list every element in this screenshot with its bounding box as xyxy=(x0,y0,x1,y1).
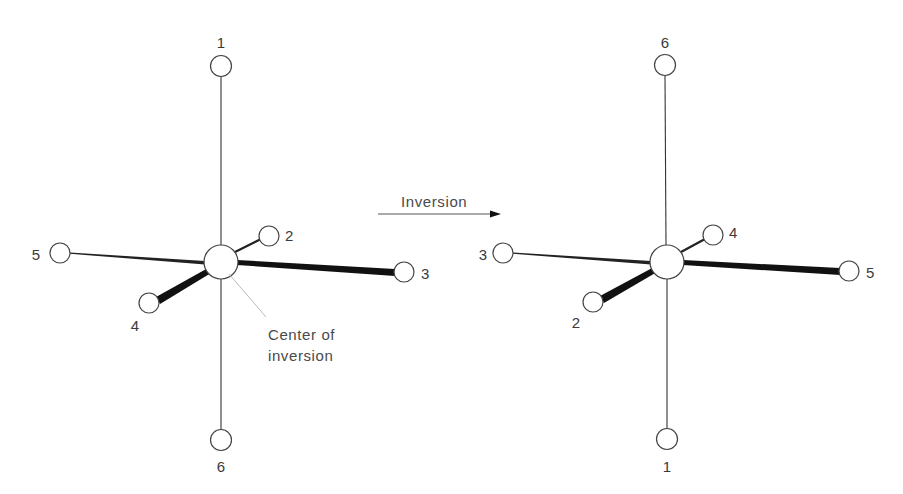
bond-right xyxy=(683,260,840,275)
atom-upper-right xyxy=(703,225,723,245)
inversion-diagram: 1 2 5 3 4 6 Center of inversion Inversio… xyxy=(0,0,903,494)
central-atom xyxy=(650,245,684,279)
atom-upper-right xyxy=(259,226,279,246)
annotation-line1: Center of xyxy=(268,326,335,343)
atom-left xyxy=(50,243,70,263)
bond-upper-right xyxy=(235,239,261,252)
molecule-before: 1 2 5 3 4 6 Center of inversion xyxy=(32,34,430,475)
arrow-label: Inversion xyxy=(401,193,467,210)
label-top: 1 xyxy=(217,34,225,51)
label-lower-left: 2 xyxy=(572,314,580,331)
bond-top xyxy=(665,76,666,245)
bond-lower-left xyxy=(600,267,657,303)
label-upper-right: 4 xyxy=(729,224,737,241)
atom-bottom xyxy=(211,430,232,451)
label-left: 3 xyxy=(479,246,487,263)
atom-top xyxy=(211,56,232,77)
bond-left xyxy=(513,253,651,265)
bond-left xyxy=(70,253,205,265)
atom-right xyxy=(839,261,859,281)
atom-bottom xyxy=(657,429,678,450)
inversion-arrow: Inversion xyxy=(378,193,501,218)
arrowhead-icon xyxy=(490,211,501,218)
label-bottom: 1 xyxy=(663,458,671,475)
bond-upper-right xyxy=(681,239,705,252)
label-top: 6 xyxy=(661,34,669,51)
annotation-line2: inversion xyxy=(268,347,333,364)
label-right: 3 xyxy=(421,265,429,282)
central-atom xyxy=(204,245,238,279)
label-right: 5 xyxy=(866,264,874,281)
molecule-after: 6 4 3 5 2 1 xyxy=(479,34,875,475)
label-bottom: 6 xyxy=(217,458,225,475)
atom-lower-left xyxy=(139,293,159,313)
atom-lower-left xyxy=(583,292,603,312)
annotation-leader-line xyxy=(229,274,266,317)
bond-lower-left xyxy=(156,268,211,304)
label-left: 5 xyxy=(32,246,40,263)
bond-right xyxy=(237,260,395,276)
atom-top xyxy=(655,55,676,76)
atom-right xyxy=(394,262,414,282)
atom-left xyxy=(493,243,513,263)
label-lower-left: 4 xyxy=(131,317,139,334)
label-upper-right: 2 xyxy=(285,227,293,244)
